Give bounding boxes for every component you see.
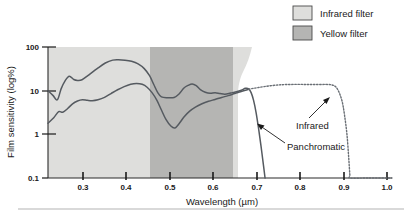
x-tick-label-1.0: 1.0 — [381, 183, 393, 192]
y-tick-label-10: 10 — [30, 87, 39, 96]
y-tick-label-100: 100 — [26, 43, 40, 52]
legend: Infrared filter Yellow filter — [293, 6, 373, 40]
legend-label-yellow-filter: Yellow filter — [320, 28, 368, 39]
x-tick-label-0.3: 0.3 — [77, 183, 89, 192]
shaded-regions — [48, 47, 252, 178]
film-sensitivity-chart: 100 10 1 0.1 0.3 0.4 0.5 0.6 0.7 0.8 0.9… — [0, 0, 418, 216]
x-axis-title: Wavelength (µm) — [186, 196, 258, 207]
panchromatic-leader-line — [259, 125, 285, 143]
x-tick-label-0.5: 0.5 — [164, 183, 176, 192]
x-tick-label-0.7: 0.7 — [251, 183, 263, 192]
y-tick-label-0.1: 0.1 — [28, 174, 40, 183]
y-axis-title: Film sensitivity (log%) — [5, 66, 16, 158]
legend-label-infrared-filter: Infrared filter — [320, 8, 373, 19]
panchromatic-label: Panchromatic — [287, 141, 345, 152]
x-tick-label-0.8: 0.8 — [294, 183, 306, 192]
legend-swatch-infrared-filter — [293, 6, 312, 20]
infrared-label: Infrared — [296, 120, 329, 131]
figure-container: 100 10 1 0.1 0.3 0.4 0.5 0.6 0.7 0.8 0.9… — [0, 0, 418, 216]
annotation-infrared: Infrared — [296, 97, 330, 131]
x-tick-label-0.6: 0.6 — [207, 183, 219, 192]
curve-infrared — [249, 84, 392, 178]
y-tick-label-1: 1 — [35, 130, 40, 139]
x-tick-label-0.9: 0.9 — [338, 183, 350, 192]
x-tick-label-0.4: 0.4 — [120, 183, 132, 192]
legend-swatch-yellow-filter — [293, 26, 312, 40]
